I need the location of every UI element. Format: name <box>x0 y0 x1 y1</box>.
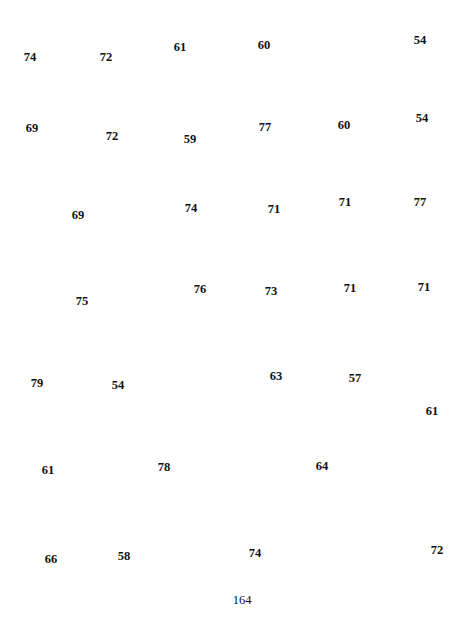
number-label: 75 <box>76 295 89 308</box>
number-label: 77 <box>414 196 427 209</box>
number-label: 76 <box>194 283 207 296</box>
number-label: 73 <box>265 285 278 298</box>
number-label: 64 <box>316 460 329 473</box>
number-label: 71 <box>344 282 357 295</box>
number-label: 74 <box>185 202 198 215</box>
number-label: 72 <box>431 544 444 557</box>
number-label: 54 <box>112 379 125 392</box>
number-label: 61 <box>426 405 439 418</box>
number-label: 60 <box>338 119 351 132</box>
number-label: 74 <box>24 51 37 64</box>
number-label: 61 <box>42 464 55 477</box>
number-label: 63 <box>270 370 283 383</box>
number-label: 71 <box>339 196 352 209</box>
page-number: 164 <box>233 594 252 607</box>
number-label: 78 <box>158 461 171 474</box>
number-label: 57 <box>349 372 362 385</box>
number-label: 58 <box>118 550 131 563</box>
number-label: 74 <box>249 547 262 560</box>
number-label: 72 <box>106 130 119 143</box>
document-page: 7472616054697259776054697471717775767371… <box>0 0 465 623</box>
number-label: 54 <box>414 34 427 47</box>
number-label: 79 <box>31 377 44 390</box>
number-label: 69 <box>72 209 85 222</box>
number-label: 69 <box>26 122 39 135</box>
number-label: 54 <box>416 112 429 125</box>
number-label: 71 <box>268 203 281 216</box>
number-label: 72 <box>100 51 113 64</box>
number-label: 66 <box>45 553 58 566</box>
number-label: 59 <box>184 133 197 146</box>
number-label: 60 <box>258 39 271 52</box>
number-label: 71 <box>418 281 431 294</box>
number-label: 61 <box>174 41 187 54</box>
number-label: 77 <box>259 121 272 134</box>
